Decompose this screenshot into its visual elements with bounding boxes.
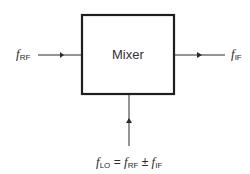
plus-minus-sign: ±	[142, 155, 149, 169]
lo-equation: fLO = fRF ± fIF	[96, 156, 162, 172]
rf-input-label: fRF	[16, 48, 30, 64]
mixer-diagram	[0, 0, 250, 174]
mixer-label: Mixer	[112, 47, 144, 62]
if-term-subscript: IF	[155, 161, 162, 170]
lo-arrow-icon	[126, 118, 132, 123]
rf-arrow-icon	[60, 52, 64, 58]
rf-term-subscript: RF	[128, 161, 139, 170]
equals-sign: =	[114, 155, 121, 169]
rf-subscript: RF	[20, 53, 31, 62]
if-subscript: IF	[235, 53, 242, 62]
if-output-label: fIF	[231, 48, 242, 64]
if-arrow-icon	[197, 52, 202, 58]
lo-subscript: LO	[100, 161, 111, 170]
